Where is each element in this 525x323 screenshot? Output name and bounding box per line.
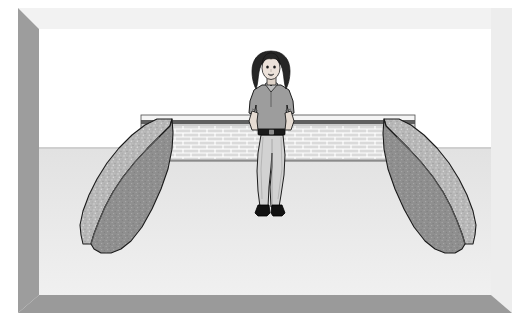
scene-artwork: [39, 29, 491, 295]
frame-right-bevel: [491, 8, 512, 313]
frame-bottom-bevel: [18, 295, 512, 313]
illustration-canvas: [0, 0, 525, 323]
picture-frame: [18, 8, 512, 313]
figure-belt-buckle: [269, 130, 274, 135]
figure-shoe-right: [271, 205, 285, 216]
frame-top-bevel: [18, 8, 512, 29]
figure-eye-left: [266, 66, 269, 69]
figure-shoe-left: [255, 205, 270, 216]
figure-eye-right: [273, 66, 276, 69]
frame-left-bevel: [18, 8, 39, 313]
